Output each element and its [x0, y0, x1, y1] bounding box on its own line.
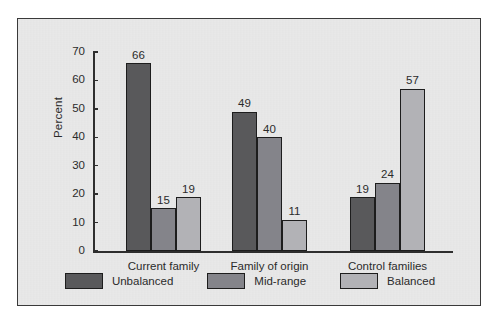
category-label-current-family: Current family: [128, 260, 200, 272]
bar-value-label: 57: [406, 75, 419, 87]
bar-unbalanced-family-of-origin: 49: [232, 112, 257, 251]
y-tick-label-60: 60: [72, 75, 85, 87]
bar-unbalanced-current-family: 66: [126, 63, 151, 251]
y-tick-label-50: 50: [72, 103, 85, 115]
figure: Percent 010203040506070 6615194940111924…: [0, 0, 498, 324]
bar-value-label: 40: [263, 124, 276, 136]
legend-item-unbalanced[interactable]: Unbalanced: [65, 273, 173, 289]
category-label-control-families: Control families: [348, 260, 427, 272]
legend-label: Balanced: [387, 275, 435, 287]
bar-unbalanced-control-families: 19: [350, 197, 375, 251]
y-tick-label-10: 10: [72, 217, 85, 229]
y-tick-label-70: 70: [72, 46, 85, 58]
y-tick-label-40: 40: [72, 132, 85, 144]
bar-value-label: 11: [289, 206, 301, 218]
legend-label: Mid-range: [254, 275, 306, 287]
legend-item-mid-range[interactable]: Mid-range: [207, 273, 306, 289]
y-tick-label-30: 30: [72, 160, 85, 172]
x-axis-line: [93, 251, 453, 253]
chart-panel: Percent 010203040506070 6615194940111924…: [17, 18, 481, 306]
bar-value-label: 24: [381, 169, 394, 181]
bar-value-label: 15: [157, 195, 170, 207]
bar-mid-range-family-of-origin: 40: [257, 137, 282, 251]
category-label-family-of-origin: Family of origin: [231, 260, 309, 272]
bar-value-label: 19: [356, 184, 369, 196]
plot-area: 010203040506070 661519494011192457 Curre…: [93, 52, 453, 251]
legend-swatch-balanced: [340, 273, 378, 289]
bar-balanced-control-families: 57: [400, 89, 425, 251]
bar-balanced-current-family: 19: [176, 197, 201, 251]
legend-item-balanced[interactable]: Balanced: [340, 273, 435, 289]
bar-mid-range-control-families: 24: [375, 183, 400, 251]
legend-swatch-mid-range: [207, 273, 245, 289]
y-axis-title: Percent: [52, 97, 64, 138]
bar-value-label: 66: [132, 50, 145, 62]
legend-label: Unbalanced: [112, 275, 173, 287]
y-tick-label-0: 0: [79, 245, 85, 257]
chart-legend: UnbalancedMid-rangeBalanced: [18, 273, 482, 289]
bar-value-label: 19: [182, 184, 195, 196]
bar-value-label: 49: [238, 98, 251, 110]
legend-swatch-unbalanced: [65, 273, 103, 289]
y-tick-label-20: 20: [72, 188, 85, 200]
bar-mid-range-current-family: 15: [151, 208, 176, 251]
bar-balanced-family-of-origin: 11: [282, 220, 307, 251]
bars-layer: 661519494011192457: [93, 52, 453, 251]
